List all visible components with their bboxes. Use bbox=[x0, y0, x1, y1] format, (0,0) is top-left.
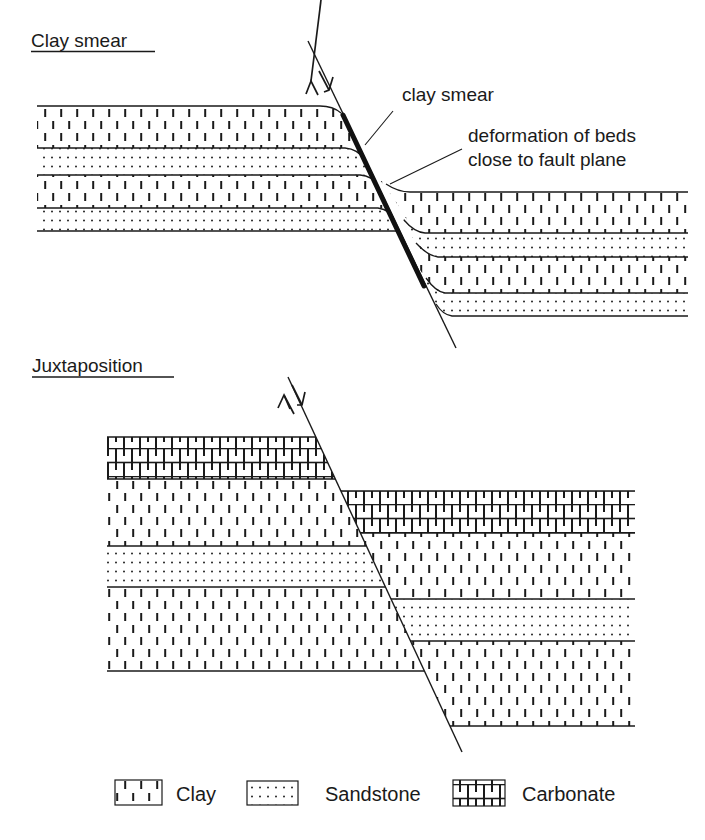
legend: Clay Sandstone Carbonate bbox=[115, 780, 615, 806]
layer-sandstone bbox=[37, 148, 378, 175]
fault-seal-diagram: Clay smear bbox=[0, 0, 705, 840]
fault-motion-arrows-icon bbox=[306, 0, 333, 95]
annotation-deformation-line2: close to fault plane bbox=[468, 149, 626, 170]
left-block-clay-smear bbox=[37, 106, 407, 231]
legend-item-carbonate: Carbonate bbox=[453, 780, 615, 806]
layer-clay bbox=[380, 180, 688, 233]
leader-line bbox=[365, 111, 393, 145]
layer-carbonate bbox=[320, 491, 635, 533]
fault-motion-arrows-icon bbox=[278, 385, 305, 414]
layer-carbonate bbox=[107, 437, 407, 479]
legend-label-sandstone: Sandstone bbox=[325, 783, 421, 805]
annotation-clay-smear: clay smear bbox=[402, 84, 495, 105]
layer-sandstone bbox=[107, 546, 407, 587]
annotation-deformation-line1: deformation of beds bbox=[468, 125, 636, 146]
panel-title-clay-smear: Clay smear bbox=[31, 30, 128, 51]
legend-item-clay: Clay bbox=[115, 780, 216, 805]
layer-clay bbox=[37, 175, 395, 208]
right-block-clay-smear bbox=[380, 180, 688, 316]
panel-juxtaposition: Juxtaposition bbox=[32, 355, 635, 752]
legend-swatch-carbonate bbox=[453, 780, 505, 806]
legend-label-carbonate: Carbonate bbox=[522, 783, 615, 805]
layer-sandstone bbox=[37, 208, 407, 231]
legend-swatch-clay bbox=[115, 780, 162, 805]
legend-item-sandstone: Sandstone bbox=[247, 781, 421, 805]
legend-swatch-sandstone bbox=[247, 781, 298, 805]
leader-line bbox=[390, 149, 462, 184]
layer-clay bbox=[37, 106, 362, 148]
legend-label-clay: Clay bbox=[176, 783, 216, 805]
layer-clay bbox=[107, 587, 427, 671]
panel-clay-smear: Clay smear bbox=[31, 0, 688, 348]
panel-title-juxtaposition: Juxtaposition bbox=[32, 355, 143, 376]
